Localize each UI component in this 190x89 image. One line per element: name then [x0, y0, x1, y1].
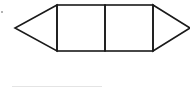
- diagram-canvas: [0, 0, 190, 89]
- shape-net-diagram: [0, 0, 190, 89]
- right-square: [105, 5, 153, 51]
- left-triangle: [15, 5, 57, 51]
- bullet-marker: [1, 11, 3, 13]
- right-triangle: [153, 5, 190, 51]
- answer-line: [12, 86, 102, 87]
- left-square: [57, 5, 105, 51]
